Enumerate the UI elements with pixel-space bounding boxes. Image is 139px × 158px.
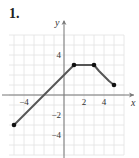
endpoint-dot <box>72 63 77 68</box>
y-tick-label: 4 <box>57 50 62 60</box>
x-axis-label: x <box>130 97 136 108</box>
endpoint-dot <box>112 83 117 88</box>
x-tick-label: 2 <box>82 97 87 107</box>
function-graph: −4244−2−4 x y <box>0 0 139 158</box>
y-axis-label: y <box>54 17 60 28</box>
y-tick-label: −2 <box>51 110 61 120</box>
y-tick-label: −4 <box>51 130 61 140</box>
x-tick-label: −4 <box>19 97 29 107</box>
endpoint-dot <box>12 123 17 128</box>
endpoint-dot <box>92 63 97 68</box>
x-tick-label: 4 <box>102 97 107 107</box>
